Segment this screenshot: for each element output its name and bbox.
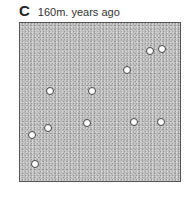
- circle-marker-icon: [28, 131, 36, 139]
- circle-marker-icon: [130, 118, 138, 126]
- circle-marker-icon: [31, 160, 39, 168]
- circle-marker-icon: [146, 47, 154, 55]
- panel-header: C 160m. years ago: [19, 2, 120, 18]
- panel-caption: 160m. years ago: [38, 6, 120, 18]
- circle-marker-icon: [44, 124, 52, 132]
- circle-marker-icon: [83, 119, 91, 127]
- circle-marker-icon: [88, 87, 96, 95]
- circle-marker-icon: [158, 45, 166, 53]
- circle-marker-icon: [46, 87, 54, 95]
- panel-letter: C: [19, 2, 30, 19]
- circle-marker-icon: [157, 118, 165, 126]
- circle-marker-icon: [123, 66, 131, 74]
- stippled-panel: [19, 22, 181, 182]
